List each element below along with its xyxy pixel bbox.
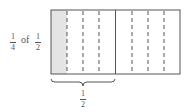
shaded-part xyxy=(51,10,67,74)
fraction-diagram xyxy=(0,0,194,112)
denominator: 2 xyxy=(81,101,85,109)
label-fraction-quarter: 1 4 xyxy=(10,33,16,52)
brace-label-half: 1 2 xyxy=(80,90,86,109)
numerator: 1 xyxy=(36,33,40,41)
label-of: of xyxy=(21,34,29,45)
numerator: 1 xyxy=(81,90,85,98)
brace xyxy=(51,79,115,86)
denominator: 2 xyxy=(36,44,40,52)
label-fraction-half: 1 2 xyxy=(35,33,41,52)
denominator: 4 xyxy=(11,44,15,52)
numerator: 1 xyxy=(11,33,15,41)
